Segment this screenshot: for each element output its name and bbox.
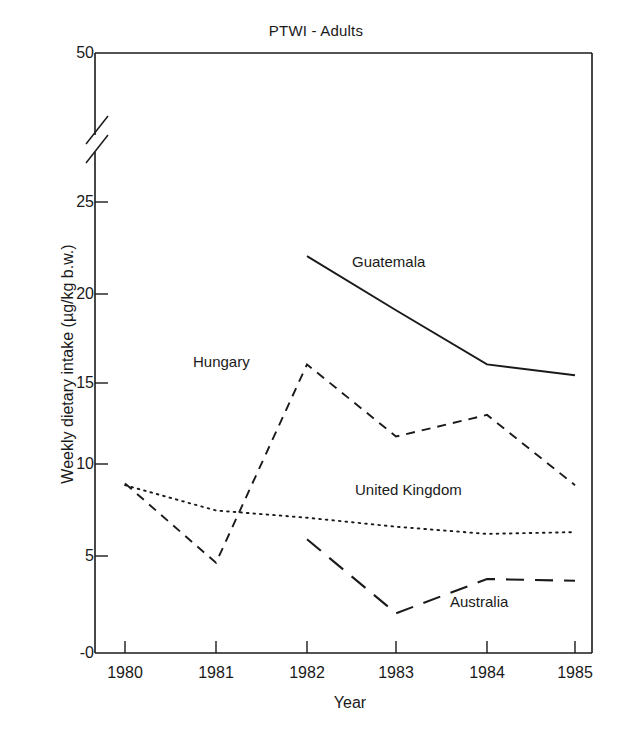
series-line-hungary [125, 364, 575, 562]
axes-frame [95, 53, 592, 653]
series-line-guatemala [307, 256, 575, 375]
plot-canvas [0, 0, 632, 738]
series-lines [125, 256, 575, 613]
y-axis-break-icon [86, 116, 108, 163]
y-axis-ticks [95, 202, 108, 556]
series-line-united-kingdom [125, 485, 575, 534]
x-axis-ticks [125, 641, 575, 653]
series-line-australia [307, 539, 575, 613]
chart-figure: PTWI - Adults Weekly dietary intake (µg/… [0, 0, 632, 738]
